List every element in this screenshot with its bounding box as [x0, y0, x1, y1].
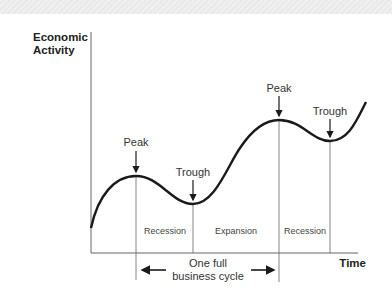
phase-expansion: Expansion: [215, 226, 257, 236]
trough2-label: Trough: [313, 105, 347, 117]
trough1-label: Trough: [176, 166, 210, 178]
cycle-label-line1: One full: [189, 257, 227, 269]
phase-recession-2: Recession: [284, 226, 326, 236]
cycle-label-line2: business cycle: [172, 270, 244, 282]
peak1-label: Peak: [123, 136, 149, 148]
economic-activity-curve: [91, 102, 366, 228]
x-axis-label: Time: [339, 257, 366, 269]
phase-recession-1: Recession: [144, 226, 186, 236]
business-cycle-diagram: Peak Trough Peak Trough Recession Expans…: [0, 0, 392, 295]
peak2-label: Peak: [266, 82, 292, 94]
